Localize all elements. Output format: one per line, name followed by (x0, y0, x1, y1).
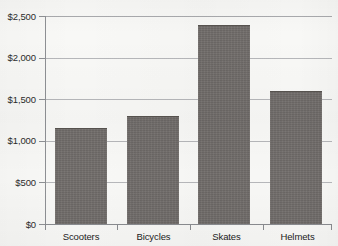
x-tick-0 (45, 225, 46, 230)
x-axis-label-helmets: Helmets (263, 231, 332, 242)
gridline-2000 (45, 58, 332, 59)
y-axis-label-2000: $2,000 (0, 52, 36, 63)
bar-scooters (55, 128, 107, 224)
x-axis-label-skates: Skates (190, 231, 263, 242)
bar-bicycles (127, 116, 179, 224)
x-axis-label-bicycles: Bicycles (117, 231, 190, 242)
y-axis-label-2500: $2,500 (0, 11, 36, 22)
y-axis-label-500: $500 (0, 177, 36, 188)
plot-area (45, 16, 332, 224)
x-tick-2 (190, 225, 191, 230)
x-tick-1 (117, 225, 118, 230)
x-tick-4 (331, 225, 332, 230)
x-axis-label-scooters: Scooters (45, 231, 117, 242)
y-axis-label-1500: $1,500 (0, 94, 36, 105)
y-tick-2500 (39, 16, 45, 17)
y-tick-1000 (39, 141, 45, 142)
y-tick-2000 (39, 58, 45, 59)
y-tick-1500 (39, 99, 45, 100)
y-axis-line (45, 16, 46, 225)
y-tick-500 (39, 182, 45, 183)
bar-helmets (270, 91, 322, 224)
x-axis-line (45, 224, 332, 225)
y-axis-label-1000: $1,000 (0, 135, 36, 146)
bar-chart: $2,500 $2,000 $1,500 $1,000 $500 $0 Scoo… (0, 0, 338, 246)
y-axis-label-0: $0 (0, 219, 36, 230)
bar-skates (198, 25, 250, 224)
x-tick-3 (263, 225, 264, 230)
gridline-2500 (45, 16, 332, 17)
